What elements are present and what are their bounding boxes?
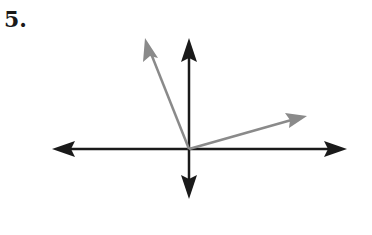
vector-right-line	[189, 119, 295, 149]
vectors	[143, 38, 307, 149]
vector-upper-left-arrow-icon	[143, 38, 158, 62]
vector-diagram	[0, 0, 372, 235]
vector-upper-left-line	[150, 51, 189, 149]
